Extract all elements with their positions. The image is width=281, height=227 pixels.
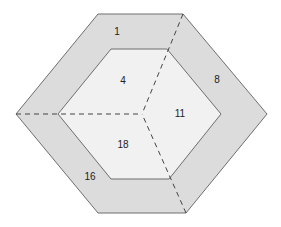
region-label-1: 1 bbox=[114, 26, 120, 37]
region-label-8: 8 bbox=[214, 74, 220, 85]
region-label-4: 4 bbox=[120, 75, 126, 86]
region-label-16: 16 bbox=[84, 171, 96, 182]
region-label-18: 18 bbox=[117, 139, 129, 150]
region-label-11: 11 bbox=[175, 108, 186, 119]
hexagon-diagram: 1 8 16 4 11 18 bbox=[0, 0, 281, 227]
